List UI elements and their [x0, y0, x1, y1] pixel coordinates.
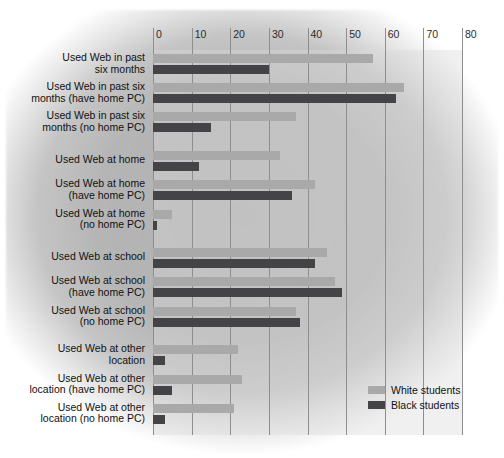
bar-black-students [153, 415, 165, 424]
bar-black-students [153, 386, 172, 395]
chart-figure: Used Web in pastsix monthsUsed Web in pa… [0, 0, 504, 458]
category-label: Used Web in past sixmonths (no home PC) [0, 110, 145, 133]
bar-white-students [153, 54, 373, 63]
legend-item: Black students [368, 397, 460, 412]
bar-black-students [153, 356, 165, 365]
bar-black-students [153, 221, 157, 230]
x-tick-label-60: 60 [385, 28, 400, 40]
x-tick-label-30: 30 [269, 28, 284, 40]
bar-black-students [153, 94, 396, 103]
bar-black-students [153, 288, 342, 297]
category-label: Used Web in pastsix months [0, 52, 145, 75]
gridline-80 [462, 28, 463, 435]
x-tick-label-0: 0 [153, 28, 162, 40]
x-tick-label-20: 20 [230, 28, 245, 40]
x-tick-label-80: 80 [462, 28, 477, 40]
category-label: Used Web at otherlocation (have home PC) [0, 373, 145, 396]
gridline-70 [423, 28, 424, 435]
category-label: Used Web at school [0, 251, 145, 263]
x-tick-label-50: 50 [346, 28, 361, 40]
bar-black-students [153, 123, 211, 132]
legend-swatch-white [368, 386, 385, 394]
category-label: Used Web at home [0, 154, 145, 166]
bar-white-students [153, 307, 296, 316]
category-label: Used Web in past sixmonths (have home PC… [0, 81, 145, 104]
bar-white-students [153, 112, 296, 121]
bar-white-students [153, 248, 327, 257]
bar-black-students [153, 259, 315, 268]
legend-item: White students [368, 382, 460, 397]
category-label: Used Web at otherlocation (no home PC) [0, 402, 145, 425]
category-label: Used Web at school(no home PC) [0, 305, 145, 328]
bar-white-students [153, 151, 280, 160]
chart-legend: White studentsBlack students [368, 382, 460, 412]
legend-swatch-black [368, 401, 385, 409]
x-tick-label-40: 40 [308, 28, 323, 40]
legend-label: White students [391, 384, 460, 396]
category-label: Used Web at home(have home PC) [0, 178, 145, 201]
bar-black-students [153, 318, 300, 327]
bar-black-students [153, 65, 269, 74]
category-label: Used Web at otherlocation [0, 343, 145, 366]
bar-white-students [153, 404, 234, 413]
bar-black-students [153, 162, 199, 171]
bar-white-students [153, 277, 335, 286]
bar-white-students [153, 210, 172, 219]
category-label: Used Web at home(no home PC) [0, 208, 145, 231]
category-labels-column: Used Web in pastsix monthsUsed Web in pa… [0, 50, 149, 435]
bar-white-students [153, 83, 404, 92]
bar-white-students [153, 345, 238, 354]
legend-label: Black students [391, 399, 459, 411]
bar-white-students [153, 180, 315, 189]
plot-area: 01020304050607080 [153, 50, 462, 435]
category-label: Used Web at school(have home PC) [0, 275, 145, 298]
x-tick-label-70: 70 [423, 28, 438, 40]
bar-white-students [153, 375, 242, 384]
x-tick-label-10: 10 [192, 28, 207, 40]
bar-black-students [153, 191, 292, 200]
